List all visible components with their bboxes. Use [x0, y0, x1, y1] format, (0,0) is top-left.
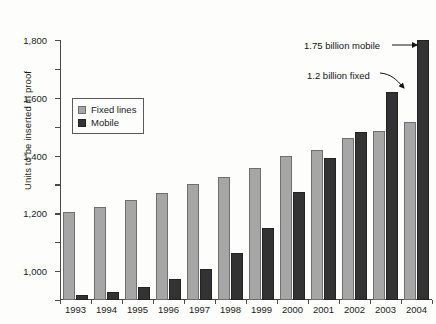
bar-chart: Units to be inserted in proof 0200400600…: [0, 0, 436, 324]
x-tick-label: 1996: [158, 304, 179, 315]
x-tick-mark: [184, 300, 185, 304]
legend-swatch-icon: [78, 106, 86, 114]
y-tick-mark: 800: [55, 184, 60, 185]
x-tick-mark: [122, 300, 123, 304]
x-tick-mark: [91, 300, 92, 304]
legend-swatch-icon: [78, 119, 86, 127]
x-tick-label: 1994: [96, 304, 117, 315]
x-tick-label: 1997: [189, 304, 210, 315]
legend-item-mobile: Mobile: [78, 116, 136, 129]
bar-mobile-1993: [76, 295, 88, 300]
x-tick-label: 2002: [344, 304, 365, 315]
bar-group: [125, 40, 150, 300]
bar-fixed-lines-1994: [94, 207, 106, 300]
bar-group: [249, 40, 274, 300]
bar-mobile-1995: [138, 287, 150, 300]
annotation-mobile: 1.75 billion mobile: [304, 40, 380, 51]
y-tick-mark: 400: [55, 242, 60, 243]
legend-label: Mobile: [91, 117, 119, 128]
x-tick-label: 1998: [220, 304, 241, 315]
chart-legend: Fixed lines Mobile: [72, 98, 144, 134]
bar-group: [63, 40, 88, 300]
x-tick-label: 2000: [282, 304, 303, 315]
y-tick-mark: 1,600: [55, 69, 60, 70]
x-tick-mark: [246, 300, 247, 304]
bar-mobile-2001: [324, 158, 336, 300]
bar-fixed-lines-1996: [156, 193, 168, 300]
x-tick-mark: [339, 300, 340, 304]
x-tick-label: 2003: [375, 304, 396, 315]
bar-mobile-1997: [200, 269, 212, 300]
bar-fixed-lines-2002: [342, 138, 354, 300]
x-tick-label: 1999: [251, 304, 272, 315]
y-tick-label: 1,400: [23, 150, 47, 161]
bar-fixed-lines-2004: [404, 122, 416, 300]
plot-area: 02004006008001,0001,2001,4001,6001,800 1…: [60, 40, 432, 300]
bar-group: [187, 40, 212, 300]
bar-group: [94, 40, 119, 300]
x-tick-mark: [153, 300, 154, 304]
bar-fixed-lines-1999: [249, 168, 261, 300]
x-tick-label: 1993: [65, 304, 86, 315]
bar-group: [218, 40, 243, 300]
bar-fixed-lines-1993: [63, 212, 75, 300]
bar-fixed-lines-2003: [373, 131, 385, 300]
x-tick-mark: [370, 300, 371, 304]
y-tick-mark: 1,200: [55, 127, 60, 128]
y-tick-mark: 1,800: [55, 40, 60, 41]
x-tick-mark: [432, 300, 433, 304]
bar-fixed-lines-2001: [311, 150, 323, 300]
x-tick-mark: [401, 300, 402, 304]
y-tick-label: 1,800: [23, 35, 47, 46]
bar-mobile-2000: [293, 192, 305, 300]
x-tick-label: 2001: [313, 304, 334, 315]
bar-group: [373, 40, 398, 300]
x-tick-mark: [60, 300, 61, 304]
bar-mobile-1998: [231, 253, 243, 300]
bar-mobile-2002: [355, 132, 367, 300]
y-tick-mark: 1,000: [55, 156, 60, 157]
bar-mobile-1999: [262, 228, 274, 300]
x-tick-mark: [277, 300, 278, 304]
bar-mobile-1994: [107, 292, 119, 300]
y-tick-mark: 1,400: [55, 98, 60, 99]
x-tick-label: 2004: [406, 304, 427, 315]
bar-mobile-1996: [169, 279, 181, 300]
bar-fixed-lines-1997: [187, 184, 199, 300]
x-tick-mark: [308, 300, 309, 304]
x-tick-mark: [215, 300, 216, 304]
legend-label: Fixed lines: [91, 104, 136, 115]
bar-group: [280, 40, 305, 300]
bar-fixed-lines-2000: [280, 156, 292, 300]
annotation-fixed: 1.2 billion fixed: [307, 70, 370, 81]
bar-group: [156, 40, 181, 300]
legend-item-fixed-lines: Fixed lines: [78, 103, 136, 116]
x-tick-label: 1995: [127, 304, 148, 315]
y-tick-label: 1,200: [23, 208, 47, 219]
bar-group: [404, 40, 429, 300]
y-tick-mark: 600: [55, 213, 60, 214]
bar-fixed-lines-1995: [125, 200, 137, 300]
y-tick-label: 1,000: [23, 266, 47, 277]
y-axis-line: [60, 40, 61, 300]
bar-mobile-2004: [417, 40, 429, 300]
bar-mobile-2003: [386, 92, 398, 300]
bar-fixed-lines-1998: [218, 177, 230, 301]
y-tick-label: 1,600: [23, 92, 47, 103]
y-tick-mark: 200: [55, 271, 60, 272]
